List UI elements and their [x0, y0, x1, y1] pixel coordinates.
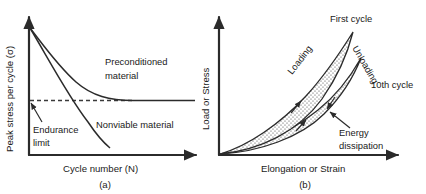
unloading-label: Unloading — [350, 44, 381, 86]
panel-b-id: (b) — [299, 179, 311, 190]
panel-b: First cycle 10th cycle Loading Unloading… — [200, 13, 413, 190]
loading-label: Loading — [285, 43, 314, 76]
first-cycle-label: First cycle — [330, 13, 372, 24]
preconditioned-material-label-line2: material — [105, 70, 138, 81]
endurance-limit-label-line2: limit — [33, 137, 50, 148]
endurance-limit-leader-arrow — [31, 103, 42, 122]
panel-a-y-axis-label: Peak stress per cycle (σ) — [4, 46, 15, 152]
preconditioned-material-label-line1: Preconditioned — [105, 56, 168, 67]
panel-a: Preconditioned material Nonviable materi… — [4, 17, 196, 190]
fatigue-and-hysteresis-figure: Preconditioned material Nonviable materi… — [0, 0, 426, 194]
energy-dissipation-label-line1: Energy — [339, 127, 369, 138]
nonviable-material-label: Nonviable material — [96, 119, 174, 130]
energy-dissipation-leader-arrow — [330, 112, 350, 128]
panel-a-id: (a) — [99, 179, 111, 190]
figure-container: Preconditioned material Nonviable materi… — [0, 0, 426, 194]
panel-b-x-axis-label: Elongation or Strain — [261, 163, 345, 174]
panel-b-y-axis-label: Load or Stress — [200, 67, 211, 130]
panel-a-x-axis-label: Cycle number (N) — [63, 163, 138, 174]
energy-dissipation-label-line2: dissipation — [339, 140, 383, 151]
endurance-limit-label-line1: Endurance — [33, 124, 78, 135]
